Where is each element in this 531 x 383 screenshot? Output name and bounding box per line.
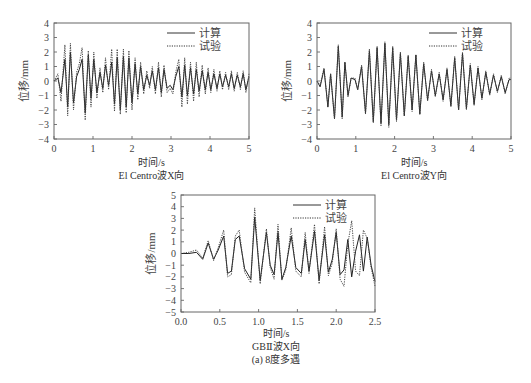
x-tick-label: 0	[315, 143, 320, 154]
y-tick-label: −4	[301, 134, 312, 145]
y-axis-label: 位移/mm	[17, 59, 30, 102]
chart-el-centro-x: −4−3−2−101234012345位移/mm计算试验 时间/s El Cen…	[0, 0, 265, 185]
y-tick-label: 4	[171, 201, 176, 212]
x-tick-label: 1	[353, 143, 358, 154]
x-tick-label: 2	[130, 143, 135, 154]
x-tick-label: 0.0	[175, 316, 188, 327]
x-tick-label: 4	[470, 143, 475, 154]
x-tick-label: 3	[169, 143, 174, 154]
y-tick-label: −3	[38, 119, 49, 130]
x-axis-label: 时间/s	[0, 156, 303, 169]
y-tick-label: −4	[165, 295, 176, 306]
x-tick-label: 5	[509, 143, 514, 154]
y-tick-label: 0	[171, 248, 176, 259]
y-tick-label: −1	[38, 90, 49, 101]
legend-label: 试验	[199, 39, 221, 52]
y-axis-label: 位移/mm	[144, 232, 157, 275]
y-tick-label: 2	[307, 47, 312, 58]
y-tick-label: −2	[165, 271, 176, 282]
y-tick-label: 1	[307, 61, 312, 72]
legend-label: 试验	[461, 39, 483, 52]
x-tick-label: 5	[247, 143, 252, 154]
y-tick-label: 4	[307, 18, 312, 29]
x-tick-label: 4	[208, 143, 213, 154]
x-tick-label: 1	[91, 143, 96, 154]
y-tick-label: 3	[44, 32, 49, 43]
y-tick-label: 2	[44, 47, 49, 58]
legend-label: 计算	[461, 26, 483, 39]
x-axis-label: 时间/s	[127, 327, 425, 340]
series-computed-line	[54, 52, 249, 113]
x-tick-label: 1.5	[291, 316, 304, 327]
legend-label: 试验	[325, 211, 347, 224]
y-tick-label: −4	[38, 134, 49, 145]
chart-gb2-x: −5−4−3−2−10123450.00.51.01.52.02.5位移/mm计…	[127, 183, 417, 383]
x-tick-label: 3	[431, 143, 436, 154]
x-tick-label: 2.5	[369, 316, 382, 327]
y-axis-label: 位移/mm	[280, 59, 293, 102]
y-tick-label: −1	[301, 90, 312, 101]
chart-title: El Centro波Y向	[263, 169, 531, 182]
figure-caption: (a) 8度多遇	[127, 353, 425, 366]
y-tick-label: 4	[44, 18, 49, 29]
y-tick-label: 1	[44, 61, 49, 72]
y-tick-label: 3	[307, 32, 312, 43]
y-tick-label: −1	[165, 260, 176, 271]
series-computed-line	[317, 43, 511, 124]
x-axis-label: 时间/s	[263, 156, 531, 169]
y-tick-label: 0	[307, 76, 312, 87]
y-tick-label: 5	[171, 190, 176, 201]
y-tick-label: −3	[301, 119, 312, 130]
x-tick-label: 2.0	[330, 316, 343, 327]
legend-label: 计算	[199, 26, 221, 39]
y-tick-label: 3	[171, 213, 176, 224]
x-tick-label: 1.0	[252, 316, 265, 327]
y-tick-label: 0	[44, 76, 49, 87]
y-tick-label: −2	[301, 105, 312, 116]
series-test-line	[317, 42, 511, 128]
chart-title: El Centro波X向	[0, 169, 303, 182]
y-tick-label: 1	[171, 236, 176, 247]
y-tick-label: −3	[165, 283, 176, 294]
x-tick-label: 2	[392, 143, 397, 154]
legend-label: 计算	[325, 198, 347, 211]
x-tick-label: 0.5	[214, 316, 227, 327]
x-tick-label: 0	[52, 143, 57, 154]
chart-title: GBⅡ波X向	[127, 340, 425, 353]
y-tick-label: 2	[171, 225, 176, 236]
chart-el-centro-y: −4−3−2−101234012345位移/mm计算试验 时间/s El Cen…	[263, 0, 531, 185]
y-tick-label: −2	[38, 105, 49, 116]
